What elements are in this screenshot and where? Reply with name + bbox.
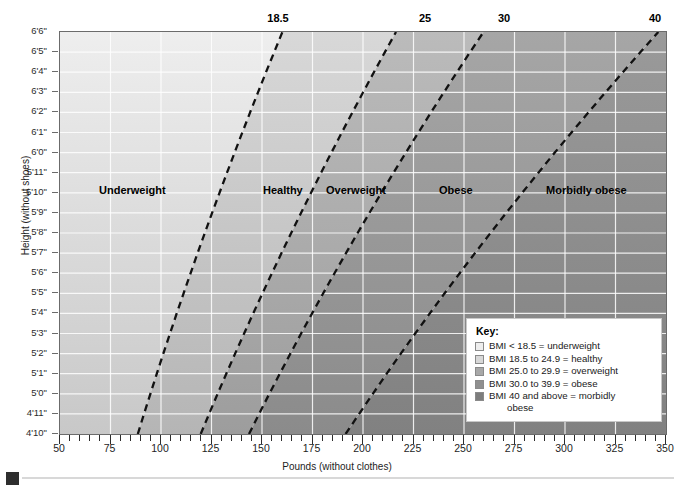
y-tick-label: 6'5" [11,46,47,56]
y-tick-mark [52,393,58,394]
x-tick-mark-minor [99,435,100,441]
y-tick-mark [52,312,58,313]
y-tick-label: 5'0" [11,388,47,398]
x-tick-mark-minor [180,435,181,441]
x-tick-mark-minor [392,435,393,441]
y-tick-label: 6'3" [11,86,47,96]
x-tick-mark-minor [120,435,121,441]
x-tick-mark-minor [443,435,444,441]
y-tick-mark [52,292,58,293]
x-tick-mark-minor [200,435,201,441]
x-tick-mark-minor [645,435,646,441]
key-legend: Key: BMI < 18.5 = underweightBMI 18.5 to… [466,318,662,422]
x-tick-mark-minor [473,435,474,441]
x-tick-mark-minor [79,435,80,441]
x-tick-label: 100 [140,442,180,454]
key-item-label: BMI 18.5 to 24.9 = healthy [489,353,602,365]
x-tick-mark-minor [342,435,343,441]
x-tick-mark-minor [483,435,484,441]
footer-divider [22,477,674,479]
y-tick-mark [52,212,58,213]
region-label-overweight: Overweight [326,184,386,196]
key-item: BMI 18.5 to 24.9 = healthy [475,353,653,365]
key-swatch-icon [475,342,484,351]
x-tick-mark-minor [604,435,605,441]
y-tick-mark [52,91,58,92]
bmi-label-40: 40 [631,12,679,24]
x-tick-mark-minor [281,435,282,441]
x-tick-label: 175 [292,442,332,454]
x-tick-mark-minor [251,435,252,441]
region-label-healthy: Healthy [263,184,303,196]
key-item: BMI 40 and above = morbidlyobese [475,390,653,413]
region-label-obese: Obese [439,184,473,196]
key-swatch-icon [475,367,484,376]
x-tick-mark-minor [635,435,636,441]
y-tick-mark [52,132,58,133]
y-tick-mark [52,111,58,112]
x-tick-mark-minor [503,435,504,441]
key-item: BMI 30.0 to 39.9 = obese [475,378,653,390]
x-tick-label: 225 [393,442,433,454]
bmi-label-18-5: 18.5 [254,12,302,24]
key-swatch-icon [475,392,484,401]
key-item-label-continued: obese [489,402,615,414]
x-tick-mark-minor [433,435,434,441]
y-tick-label: 5'2" [11,348,47,358]
y-tick-mark [52,413,58,414]
y-tick-mark [52,71,58,72]
x-tick-mark-minor [150,435,151,441]
y-tick-label: 5'3" [11,328,47,338]
x-tick-label: 200 [342,442,382,454]
x-tick-mark-minor [291,435,292,441]
region-label-morbidly-obese: Morbidly obese [546,184,627,196]
x-tick-mark-minor [423,435,424,441]
x-tick-label: 250 [443,442,483,454]
x-tick-mark-minor [221,435,222,441]
x-tick-mark-minor [170,435,171,441]
x-tick-mark-minor [231,435,232,441]
x-tick-mark-minor [544,435,545,441]
x-tick-label: 50 [39,442,79,454]
x-tick-label: 300 [544,442,584,454]
x-tick-mark-minor [655,435,656,441]
y-tick-mark [52,333,58,334]
y-tick-label: 6'4" [11,66,47,76]
bmi-label-30: 30 [480,12,528,24]
x-tick-mark-minor [241,435,242,441]
x-tick-mark-minor [332,435,333,441]
x-tick-mark-minor [190,435,191,441]
y-tick-mark [52,51,58,52]
x-axis-title: Pounds (without clothes) [0,461,674,472]
x-tick-mark-minor [534,435,535,441]
x-tick-mark-minor [140,435,141,441]
x-tick-mark-minor [554,435,555,441]
x-tick-mark-minor [625,435,626,441]
x-tick-mark-minor [574,435,575,441]
x-tick-mark-minor [89,435,90,441]
x-tick-label: 75 [90,442,130,454]
key-swatch-icon [475,380,484,389]
x-tick-mark-minor [130,435,131,441]
x-tick-mark-minor [69,435,70,441]
y-tick-mark [52,172,58,173]
x-tick-label: 125 [191,442,231,454]
key-item-label: BMI 30.0 to 39.9 = obese [489,378,598,390]
y-tick-label: 6'6" [11,26,47,36]
region-label-underweight: Underweight [99,184,166,196]
key-item: BMI 25.0 to 29.9 = overweight [475,365,653,377]
y-tick-mark [52,433,58,434]
x-tick-mark-minor [594,435,595,441]
key-item-label: BMI < 18.5 = underweight [489,340,600,352]
x-tick-mark-minor [322,435,323,441]
y-tick-label: 5'4" [11,307,47,317]
x-tick-mark-minor [372,435,373,441]
x-tick-label: 350 [645,442,679,454]
key-item: BMI < 18.5 = underweight [475,340,653,352]
y-tick-mark [52,252,58,253]
y-tick-label: 6'2" [11,106,47,116]
x-tick-label: 150 [241,442,281,454]
x-tick-mark-minor [352,435,353,441]
y-tick-mark [52,353,58,354]
